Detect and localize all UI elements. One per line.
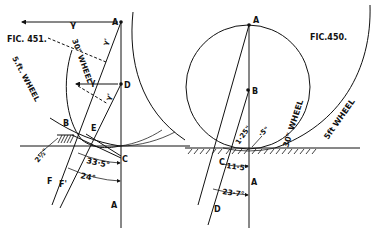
diagram-canvas: FIC. 451. A D B E C F F' A γ γ γ' γ' 30"… [0, 0, 373, 231]
label-5ft-wheel-451: 5.ft. WHEEL [10, 55, 42, 104]
rail-hatch-450 [188, 149, 316, 154]
label-angle-23-7: 23·7° [222, 187, 246, 199]
label-D-451: D [124, 81, 131, 90]
fig451-title: FIC. 451. [7, 35, 47, 44]
label-D-450: D [214, 205, 221, 214]
figure-450: FIC.450. A B C D A 30" WHEEL 5ft WHEEL 1… [185, 5, 370, 228]
label-C-451: C [122, 155, 128, 164]
point-B-450 [246, 88, 250, 92]
label-angle-24: 24° [80, 171, 97, 183]
point-D [119, 82, 123, 86]
fig450-title: FIC.450. [310, 33, 347, 42]
rail-hatch-451 [57, 135, 74, 143]
label-A-bottom-450: A [251, 178, 258, 187]
label-A-bottom-451: A [111, 201, 118, 210]
tread-curve [120, 132, 175, 146]
label-C-450: C [219, 158, 225, 167]
label-A-top-451: A [112, 18, 119, 27]
label-depth-5: ·5" [257, 125, 271, 138]
label-angle-11-5: 11·5° [226, 161, 250, 173]
wheel-5ft-arc-right [132, 12, 185, 140]
point-A-450 [247, 23, 251, 27]
label-B-450: B [252, 87, 258, 96]
label-angle-33-5: 33·5° [86, 156, 111, 170]
label-depth-1-25: 1·25" [234, 124, 253, 146]
label-F: F [47, 177, 52, 186]
label-30in-wheel-450: 30" WHEEL [281, 99, 305, 149]
label-gamma-top: γ [70, 19, 76, 29]
label-gamma-prime-top: γ' [101, 37, 111, 46]
point-A [119, 20, 123, 24]
label-A-top-450: A [253, 16, 260, 25]
label-B-451: B [63, 119, 69, 128]
label-F1: F' [59, 180, 67, 189]
label-offset-2-5: 2½" [33, 147, 49, 164]
tread-curve-2 [120, 130, 162, 146]
figure-451: FIC. 451. A D B E C F F' A γ γ γ' γ' 30"… [7, 12, 190, 228]
label-E-451: E [91, 124, 96, 133]
label-30in-wheel-451: 30" WHEEL [70, 38, 94, 85]
